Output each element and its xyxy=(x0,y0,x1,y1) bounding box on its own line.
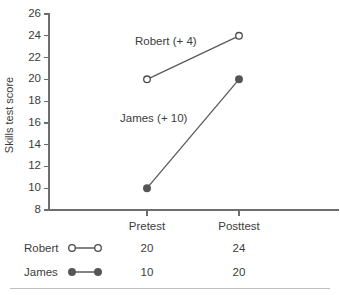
series-robert-point-pretest xyxy=(144,76,151,83)
series-james-line xyxy=(147,79,239,188)
legend-swatch-robert xyxy=(69,245,102,252)
y-axis-title-text: Skills test score xyxy=(3,77,15,153)
y-tick-label-14: 14 xyxy=(28,138,41,150)
x-tick-label-pretest: Pretest xyxy=(129,220,166,232)
y-tick-label-20: 20 xyxy=(28,72,41,84)
legend-swatch-james xyxy=(69,269,102,276)
legend-value-robert-pretest: 20 xyxy=(141,242,154,254)
y-tick-label-18: 18 xyxy=(28,94,41,106)
legend-value-james-pretest: 10 xyxy=(141,266,154,278)
legend-value-james-posttest: 20 xyxy=(233,266,246,278)
y-tick-label-22: 22 xyxy=(28,51,41,63)
legend-swatch-robert-marker-right xyxy=(95,245,102,252)
y-tick-label-8: 8 xyxy=(35,203,41,215)
legend-table: Robert 20 24 James 10 20 xyxy=(10,242,330,288)
legend-row-robert[interactable]: Robert 20 24 xyxy=(24,242,246,254)
legend-label-james: James xyxy=(24,266,58,278)
y-tick-label-24: 24 xyxy=(28,29,41,41)
legend-row-james[interactable]: James 10 20 xyxy=(24,266,245,278)
annotation-robert: Robert (+ 4) xyxy=(135,35,197,47)
legend-label-robert: Robert xyxy=(24,242,59,254)
series-robert-point-posttest xyxy=(236,33,243,40)
x-axis-ticks xyxy=(147,210,239,216)
skills-test-score-line-chart: Skills test score 26 24 22 20 18 xyxy=(0,0,340,295)
series-james-point-posttest xyxy=(236,76,243,83)
legend-swatch-robert-marker-left xyxy=(69,245,76,252)
series-james-point-pretest xyxy=(144,185,151,192)
annotation-james: James (+ 10) xyxy=(120,112,188,124)
y-tick-label-12: 12 xyxy=(28,159,41,171)
legend-swatch-james-marker-left xyxy=(69,269,76,276)
legend-swatch-james-marker-right xyxy=(95,269,102,276)
x-tick-label-posttest: Posttest xyxy=(218,220,260,232)
y-tick-label-26: 26 xyxy=(28,7,41,19)
y-tick-label-10: 10 xyxy=(28,181,41,193)
legend-value-robert-posttest: 24 xyxy=(233,242,246,254)
plot-annotations: Robert (+ 4) James (+ 10) xyxy=(120,35,197,124)
series-james xyxy=(144,76,243,192)
y-axis-title: Skills test score xyxy=(3,77,15,153)
y-axis-ticks xyxy=(44,14,49,210)
chart-figure: Skills test score 26 24 22 20 18 xyxy=(0,0,340,295)
y-tick-label-16: 16 xyxy=(28,116,41,128)
y-axis-tick-labels: 26 24 22 20 18 16 14 12 10 8 xyxy=(28,7,41,215)
x-axis-tick-labels: Pretest Posttest xyxy=(129,220,261,232)
